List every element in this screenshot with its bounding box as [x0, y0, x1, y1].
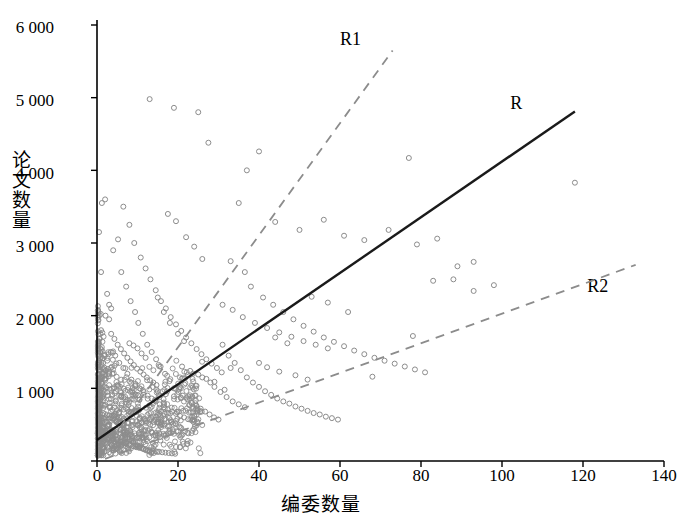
trend-lines-layer: [97, 50, 636, 458]
scatter-points-layer: [95, 97, 577, 459]
scatter-chart: 论文数量 编委数量 6 000 5 000 4 000 3 000 2 000 …: [0, 0, 678, 521]
axes-layer: [91, 20, 664, 467]
plot-area: [0, 0, 678, 521]
